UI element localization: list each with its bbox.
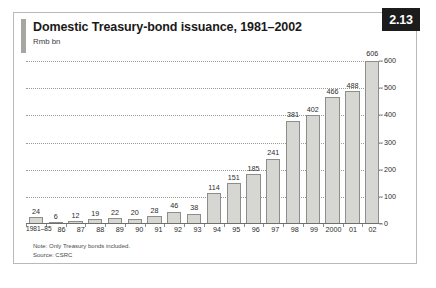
page-title: Domestic Treasury-bond issuance, 1981–20…: [33, 20, 302, 34]
x-axis-tick-label: 1981–85: [26, 226, 52, 240]
bar-rect: [207, 193, 221, 224]
bar-value-label: 28: [151, 207, 159, 214]
figure-number-badge: 2.13: [382, 8, 420, 31]
x-axis-tick-label: 96: [246, 226, 265, 240]
bar-item: 6: [46, 61, 66, 224]
bar-value-label: 114: [208, 184, 219, 191]
x-axis-tick-label: 89: [110, 226, 129, 240]
bar-item: 114: [204, 61, 224, 224]
bars-group: 2461219222028463811415118524138140246648…: [26, 61, 382, 224]
y-axis-tick-mark: [379, 61, 383, 62]
bar-value-label: 151: [228, 174, 240, 181]
x-axis-tick-label: 98: [285, 226, 304, 240]
bar-value-label: 6: [54, 213, 58, 220]
bar-value-label: 22: [111, 209, 119, 216]
y-axis-tick-label: 600: [384, 57, 396, 64]
bar-value-label: 24: [32, 208, 40, 215]
bar-item: 241: [263, 61, 283, 224]
x-axis: 1981–85868788899091929394959697989920000…: [26, 226, 382, 240]
bar-value-label: 488: [346, 82, 358, 89]
bar-value-label: 12: [71, 212, 79, 219]
x-axis-tick-label: 90: [129, 226, 148, 240]
bar-value-label: 402: [307, 106, 319, 113]
bar-item: 28: [145, 61, 165, 224]
y-axis-tick-label: 500: [384, 85, 396, 92]
bar-item: 185: [244, 61, 264, 224]
bar-value-label: 185: [247, 165, 259, 172]
y-axis-tick-mark: [379, 169, 383, 170]
bar-item: 466: [323, 61, 343, 224]
bar-item: 22: [105, 61, 125, 224]
y-axis-tick-label: 200: [384, 166, 396, 173]
x-axis-tick-label: 94: [207, 226, 226, 240]
source-line: Source: CSRC: [33, 251, 130, 260]
bar-value-label: 46: [170, 202, 178, 209]
x-axis-tick-label: 87: [71, 226, 90, 240]
x-axis-tick-label: 99: [304, 226, 323, 240]
bar-item: 24: [26, 61, 46, 224]
y-axis-tick-mark: [379, 115, 383, 116]
bar-value-label: 38: [190, 204, 198, 211]
x-axis-tick-label: 93: [188, 226, 207, 240]
bar-rect: [325, 97, 339, 224]
y-axis-tick-label: 400: [384, 112, 396, 119]
y-axis-tick-label: 300: [384, 139, 396, 146]
bar-item: 20: [125, 61, 145, 224]
bar-rect: [306, 115, 320, 224]
bar-item: 488: [343, 61, 363, 224]
title-accent-bar: [21, 19, 26, 53]
bar-item: 46: [164, 61, 184, 224]
bar-rect: [246, 174, 260, 224]
chart-units-label: Rmb bn: [33, 37, 60, 46]
bar-item: 19: [85, 61, 105, 224]
bar-value-label: 606: [366, 50, 378, 57]
bar-rect: [345, 91, 359, 224]
x-axis-tick-label: 01: [343, 226, 362, 240]
y-axis: 0100200300400500600: [384, 61, 416, 224]
x-axis-tick-label: 02: [363, 226, 382, 240]
note-line: Note: Only Treasury bonds included.: [33, 242, 130, 251]
x-axis-tick-label: 91: [149, 226, 168, 240]
figure-container: Domestic Treasury-bond issuance, 1981–20…: [13, 12, 417, 264]
bar-item: 151: [224, 61, 244, 224]
y-axis-tick-mark: [379, 88, 383, 89]
y-axis-tick-mark: [379, 142, 383, 143]
bar-value-label: 20: [131, 209, 139, 216]
y-axis-tick-label: 0: [384, 220, 388, 227]
bar-value-label: 19: [91, 210, 99, 217]
x-axis-tick-label: 88: [91, 226, 110, 240]
bar-value-label: 381: [287, 111, 299, 118]
bar-value-label: 466: [327, 88, 339, 95]
bar-rect: [365, 61, 379, 224]
bar-rect: [286, 121, 300, 225]
x-axis-tick-label: 95: [227, 226, 246, 240]
x-axis-tick-label: 92: [168, 226, 187, 240]
x-axis-tick-label: 86: [52, 226, 71, 240]
bar-item: 381: [283, 61, 303, 224]
figure-footnotes: Note: Only Treasury bonds included. Sour…: [33, 242, 130, 261]
bar-value-label: 241: [267, 149, 279, 156]
bar-item: 402: [303, 61, 323, 224]
bar-item: 12: [66, 61, 86, 224]
bar-rect: [227, 183, 241, 224]
chart-plot-area: 2461219222028463811415118524138140246648…: [26, 61, 382, 224]
figure-header: Domestic Treasury-bond issuance, 1981–20…: [14, 13, 418, 57]
y-axis-tick-label: 100: [384, 193, 396, 200]
bar-item: 38: [184, 61, 204, 224]
x-axis-tick-label: 2000: [324, 226, 343, 240]
bar-rect: [266, 159, 280, 224]
y-axis-tick-mark: [379, 196, 383, 197]
x-axis-tick-label: 97: [265, 226, 284, 240]
